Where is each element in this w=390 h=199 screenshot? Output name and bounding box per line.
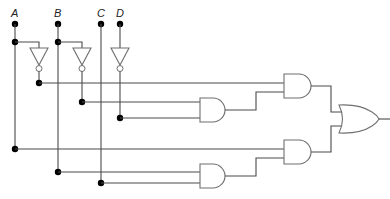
wire-b-to-inverter [58, 42, 82, 48]
logic-circuit: A B C D [0, 0, 390, 199]
input-label-a: A [10, 7, 18, 19]
and-gate-2 [284, 74, 311, 98]
inverter-b-bubble [79, 66, 85, 72]
wire-and3-to-and4 [225, 158, 284, 176]
input-label-b: B [54, 7, 61, 19]
inverter-a [30, 48, 48, 65]
inverter-d [111, 48, 129, 65]
and-gate-1 [200, 98, 225, 122]
and-gate-3 [200, 164, 225, 188]
inverter-b [73, 48, 91, 65]
inverter-d-bubble [117, 66, 123, 72]
wire-and1-to-and2 [225, 92, 284, 110]
wire-a-to-inverter [15, 42, 39, 48]
input-label-d: D [116, 7, 124, 19]
inverter-a-bubble [36, 66, 42, 72]
or-gate [339, 105, 379, 133]
and-gate-4 [284, 140, 311, 164]
wire-and2-to-or [311, 86, 343, 112]
wire-and4-to-or [311, 126, 343, 152]
input-label-c: C [97, 7, 105, 19]
